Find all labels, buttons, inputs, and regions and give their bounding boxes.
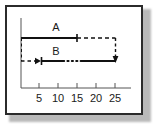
series-b-arrow-marker (35, 58, 41, 64)
x-axis-tick-labels: 5 10 15 20 25 (36, 92, 121, 104)
x-tick-label-25: 25 (109, 92, 121, 104)
x-tick-label-5: 5 (36, 92, 42, 104)
timeline-plot: 5 10 15 20 25 A B (5, 5, 143, 115)
x-tick-label-20: 20 (90, 92, 102, 104)
x-axis-ticks (39, 83, 115, 88)
x-tick-label-15: 15 (71, 92, 83, 104)
figure-root: 5 10 15 20 25 A B (0, 0, 157, 131)
series-b-label: B (52, 45, 59, 57)
x-tick-label-10: 10 (52, 92, 64, 104)
series-a-label: A (52, 21, 60, 33)
